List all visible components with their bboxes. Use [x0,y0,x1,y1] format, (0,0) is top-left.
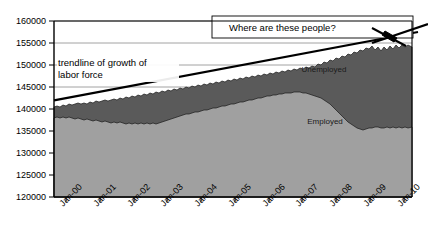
trendline-note-annotation: trendline of growth of labor force [57,57,179,82]
y-tick-label: 130000 [16,148,46,158]
employed-label: Employed [307,117,343,126]
y-tick-label: 135000 [16,126,46,136]
y-tick-label: 140000 [16,104,46,114]
y-tick-label: 145000 [16,82,46,92]
trendline-note-line2: labor force [58,69,103,80]
unemployed-label: Unemployed [302,65,347,74]
labor-force-area-chart: Where are these people? trendline of gro… [0,0,428,251]
trendline-note-line1: trendline of growth of [58,57,147,68]
y-tick-label: 120000 [16,192,46,202]
y-tick-labels: 160000 155000 150000 145000 140000 13500… [16,16,46,202]
chart-container: Where are these people? trendline of gro… [0,0,428,251]
y-tick-label: 160000 [16,16,46,26]
where-are-these-people-text: Where are these people? [229,22,336,33]
y-tick-label: 150000 [16,60,46,70]
y-tick-label: 155000 [16,38,46,48]
y-tick-label: 125000 [16,170,46,180]
